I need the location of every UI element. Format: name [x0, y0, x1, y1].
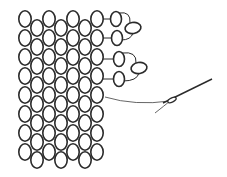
bead: [19, 144, 31, 160]
bead: [67, 49, 79, 65]
bead: [91, 106, 103, 122]
picot-edge: [111, 12, 148, 87]
bead: [79, 96, 91, 112]
bead: [67, 30, 79, 46]
bead: [91, 87, 103, 103]
picot-bead: [114, 72, 125, 87]
bead: [91, 125, 103, 141]
bead: [55, 152, 67, 168]
picot-bead: [111, 12, 122, 27]
bead: [67, 125, 79, 141]
bead: [19, 11, 31, 27]
bead: [31, 134, 43, 150]
bead: [55, 134, 67, 150]
bead: [91, 30, 103, 46]
bead: [19, 125, 31, 141]
bead: [91, 49, 103, 65]
picot-bead: [124, 21, 142, 35]
picot-bead: [112, 31, 123, 46]
bead: [55, 39, 67, 55]
bead: [79, 20, 91, 36]
bead: [43, 106, 55, 122]
bead: [55, 115, 67, 131]
bead: [67, 106, 79, 122]
bead: [31, 152, 43, 168]
bead: [79, 77, 91, 93]
bead: [55, 20, 67, 36]
bead: [55, 96, 67, 112]
bead: [19, 30, 31, 46]
bead: [43, 125, 55, 141]
bead: [31, 96, 43, 112]
bead-stitch-diagram: [0, 0, 227, 177]
bead: [67, 144, 79, 160]
bead: [31, 58, 43, 74]
picot-bead: [130, 61, 148, 75]
picot-bead: [114, 52, 125, 67]
bead: [43, 144, 55, 160]
bead: [31, 77, 43, 93]
bead: [31, 115, 43, 131]
peyote-bead-grid: [19, 11, 103, 168]
bead: [19, 68, 31, 84]
bead: [79, 152, 91, 168]
bead: [91, 11, 103, 27]
bead: [31, 20, 43, 36]
bead: [19, 49, 31, 65]
bead: [43, 30, 55, 46]
bead: [91, 68, 103, 84]
bead: [79, 39, 91, 55]
bead: [31, 39, 43, 55]
bead: [67, 68, 79, 84]
bead: [79, 134, 91, 150]
bead: [67, 11, 79, 27]
bead: [43, 11, 55, 27]
bead: [19, 106, 31, 122]
bead: [19, 87, 31, 103]
bead: [79, 58, 91, 74]
bead: [43, 87, 55, 103]
bead: [79, 115, 91, 131]
bead: [55, 58, 67, 74]
bead: [43, 68, 55, 84]
bead: [67, 87, 79, 103]
diagram-canvas: [0, 0, 227, 177]
bead: [55, 77, 67, 93]
bead: [43, 49, 55, 65]
bead: [91, 144, 103, 160]
